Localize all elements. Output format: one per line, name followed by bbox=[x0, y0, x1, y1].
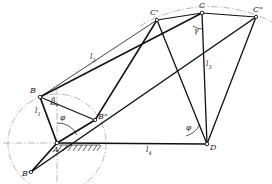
point-label-B: B bbox=[30, 87, 36, 95]
joint-D bbox=[205, 142, 209, 146]
angle-arcs bbox=[50, 26, 203, 136]
link-C-C2 bbox=[202, 13, 256, 17]
angle-label-phi-D: φ bbox=[186, 124, 191, 132]
point-label-B2: B" bbox=[98, 113, 108, 121]
joint-B bbox=[38, 95, 42, 99]
centerlines bbox=[3, 88, 112, 183]
link-A-D bbox=[57, 143, 207, 144]
point-label-B1: B' bbox=[22, 170, 30, 178]
length-label-l3: l3 bbox=[206, 60, 212, 70]
link-C-D bbox=[202, 13, 207, 144]
joint-C2 bbox=[254, 15, 257, 18]
link-B2-C1 bbox=[95, 20, 157, 120]
linkage-bars bbox=[31, 13, 256, 172]
construction-B-C1 bbox=[40, 20, 157, 97]
joint-C bbox=[200, 11, 204, 15]
ground-hatch bbox=[58, 145, 101, 151]
link-B-C bbox=[40, 13, 202, 97]
length-label-l2: l2 bbox=[90, 53, 96, 63]
angle-label-beta: β bbox=[51, 97, 55, 105]
length-label-l1: l1 bbox=[35, 107, 41, 117]
diagram-canvas: A B B" B' C C' C" D l1 l2 l3 l4 β φ γ φ bbox=[0, 0, 272, 184]
point-label-A: A bbox=[53, 146, 59, 154]
link-B-B2 bbox=[40, 97, 95, 120]
point-label-C2: C" bbox=[253, 6, 263, 14]
linkage-drawing bbox=[0, 0, 272, 184]
angle-label-gamma: γ bbox=[194, 27, 198, 35]
point-label-C1: C' bbox=[150, 9, 158, 17]
point-label-C: C bbox=[199, 2, 205, 10]
point-label-D: D bbox=[210, 144, 216, 152]
angle-label-phi-A: φ bbox=[60, 114, 65, 122]
length-label-l4: l4 bbox=[146, 146, 152, 156]
joint-C1 bbox=[155, 18, 158, 21]
joint-B2 bbox=[93, 118, 96, 121]
link-C2-D bbox=[207, 17, 256, 144]
